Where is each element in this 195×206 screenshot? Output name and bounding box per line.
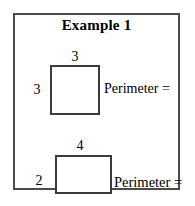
dimension-label-top-problem-2: 4 — [71, 139, 89, 153]
square-figure-problem-1 — [50, 65, 100, 115]
dimension-label-left-problem-1: 3 — [30, 83, 44, 97]
dimension-label-top-problem-1: 3 — [66, 50, 84, 64]
perimeter-prompt-problem-1: Perimeter = — [104, 82, 170, 96]
rectangle-figure-problem-2 — [55, 155, 112, 194]
perimeter-prompt-problem-2: Perimeter = — [114, 175, 182, 189]
page-title: Example 1 — [15, 17, 178, 33]
dimension-label-left-problem-2: 2 — [32, 174, 46, 188]
worksheet-card: Example 1 3 3 Perimeter = 4 2 Perimeter … — [13, 13, 180, 190]
